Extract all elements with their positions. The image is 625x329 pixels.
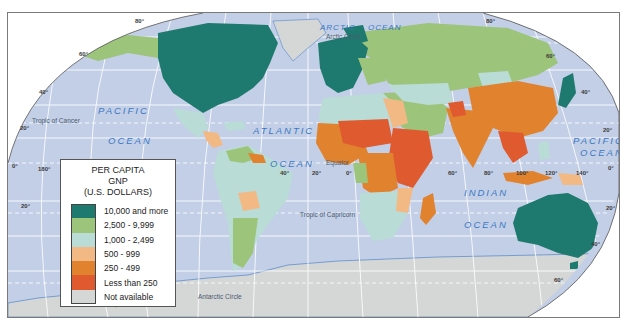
lat-20-east-label: 20°	[603, 127, 612, 133]
legend-swatch-10000-plus	[71, 204, 96, 218]
lat-80-west-label: 80°	[135, 18, 144, 24]
legend-item: Not available	[71, 290, 175, 304]
legend-list: 10,000 and more 2,500 - 9,999 1,000 - 2,…	[61, 204, 175, 304]
legend-label: 1,000 - 2,499	[104, 235, 154, 245]
lon-80-label: 80°	[484, 170, 493, 176]
legend-label: Not available	[104, 292, 153, 302]
lon-20-label: 20°	[312, 170, 321, 176]
lat-20s-west-label: 20°	[21, 203, 30, 209]
legend-swatch-500-999	[71, 247, 96, 261]
lon-60-label: 60°	[448, 170, 457, 176]
lon-40-label: 40°	[280, 170, 289, 176]
legend-label: 500 - 999	[104, 249, 140, 259]
legend-item: 250 - 499	[71, 261, 175, 275]
legend-swatch-less-than-250	[71, 275, 96, 289]
lat-20-west-label: 20°	[20, 125, 29, 131]
legend: PER CAPITA GNP (U.S. DOLLARS) 10,000 and…	[60, 159, 176, 307]
lon-0-label: 0°	[346, 170, 352, 176]
lat-60-west-label: 60°	[79, 51, 88, 57]
philippines	[538, 141, 550, 160]
indian-ocean-label-1: INDIAN	[464, 187, 508, 198]
legend-label: 250 - 499	[104, 263, 140, 273]
lon-180-label: 180°	[38, 166, 50, 172]
legend-item: 500 - 999	[71, 247, 175, 261]
legend-swatch-2500-9999	[71, 218, 96, 232]
legend-item: 10,000 and more	[71, 204, 175, 218]
pacific-ocean-east-label-2: OCEAN	[580, 147, 620, 158]
legend-item: Less than 250	[71, 275, 175, 289]
lat-40s-east-label: 40°	[591, 241, 600, 247]
sahel	[338, 119, 393, 148]
pacific-ocean-west-label-1: PACIFIC	[98, 105, 149, 116]
tropic-of-capricorn-label: Tropic of Capricorn	[300, 211, 355, 218]
lat-0-west-label: 0°	[12, 163, 18, 169]
indian-ocean-label-2: OCEAN	[464, 219, 508, 230]
pacific-ocean-east-label-1: PACIFIC	[573, 135, 620, 146]
legend-label: 10,000 and more	[104, 206, 168, 216]
legend-label: 2,500 - 9,999	[104, 220, 154, 230]
lat-0-east-label: 0°	[608, 165, 614, 171]
lat-60s-east-label: 60°	[554, 277, 563, 283]
lat-40-west-label: 40°	[39, 89, 48, 95]
legend-swatch-1000-2499	[71, 233, 96, 247]
legend-title-line3: (U.S. DOLLARS)	[61, 187, 175, 198]
pacific-ocean-west-label-2: OCEAN	[108, 135, 152, 146]
legend-swatch-not-available	[71, 290, 96, 304]
atlantic-ocean-label-2: OCEAN	[270, 158, 314, 169]
lat-40-east-label: 40°	[581, 89, 590, 95]
arctic-ocean-label-2: OCEAN	[368, 23, 401, 32]
antarctic-circle-label: Antarctic Circle	[198, 293, 242, 300]
lon-140-label: 140°	[576, 170, 588, 176]
arctic-circle-label: Arctic Circle	[326, 33, 361, 40]
legend-swatch-250-499	[71, 261, 96, 275]
equator-label: Equator	[326, 159, 349, 166]
lat-60-east-label: 60°	[546, 53, 555, 59]
legend-title-line2: GNP	[61, 176, 175, 187]
legend-title-line1: PER CAPITA	[61, 165, 175, 176]
lat-20s-east-label: 20°	[606, 205, 615, 211]
lon-100-label: 100°	[516, 170, 528, 176]
tropic-of-cancer-label: Tropic of Cancer	[32, 117, 80, 124]
arctic-ocean-label-1: ARCTIC	[320, 23, 356, 32]
legend-item: 1,000 - 2,499	[71, 233, 175, 247]
legend-label: Less than 250	[104, 278, 157, 288]
lon-120-label: 120°	[545, 170, 557, 176]
atlantic-ocean-label-1: ATLANTIC	[253, 125, 314, 136]
legend-item: 2,500 - 9,999	[71, 218, 175, 232]
lat-80-east-label: 80°	[486, 18, 495, 24]
